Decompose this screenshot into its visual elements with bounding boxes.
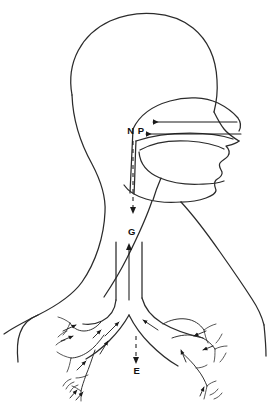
anatomy-illustration: N P G E [0,0,280,404]
carina-flow-arrows [93,320,158,338]
neck-outline [4,95,105,334]
label-expiration: E [134,365,141,376]
left-shoulder [17,315,38,362]
trachea-ascending-arrow [126,243,132,300]
respiratory-diagram: N P G E [0,0,280,404]
left-lung-flow-arrows [61,325,108,400]
oral-cavity [140,141,224,150]
cranium-outline [71,13,218,112]
right-bronchioles [163,319,227,399]
expiration-arrow [133,336,139,364]
face-profile [104,112,239,297]
tongue [139,152,224,200]
label-glottis: G [128,226,136,237]
label-nasopharynx: N P [127,125,145,136]
right-shoulder [181,202,266,356]
right-lung-flow-arrows [181,331,213,396]
left-bronchioles [56,317,104,401]
